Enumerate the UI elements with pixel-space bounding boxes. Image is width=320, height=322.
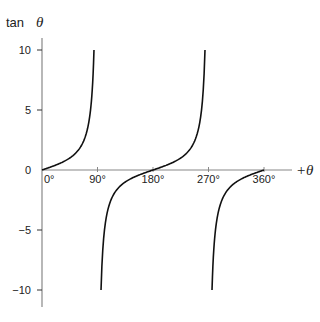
- y-axis-title-symbol: θ: [36, 14, 44, 30]
- y-tick-label: −5: [18, 224, 31, 236]
- x-axis-title: +θ: [296, 162, 314, 178]
- y-tick-label: 10: [19, 44, 31, 56]
- tan-chart: 1050−5−100°90°180°270°360°tanθ+θ: [0, 0, 320, 322]
- x-tick-label: 90°: [89, 173, 106, 185]
- x-tick-label: 270°: [197, 173, 220, 185]
- tan-curve-branch-3: [212, 170, 264, 290]
- tan-curve-branch-1: [42, 50, 94, 170]
- y-tick-label: −10: [12, 284, 31, 296]
- y-axis-title: tan: [6, 15, 24, 30]
- y-tick-label: 5: [25, 104, 31, 116]
- y-tick-label: 0: [25, 164, 31, 176]
- x-tick-label: 180°: [142, 173, 165, 185]
- x-tick-label: 360°: [253, 173, 276, 185]
- x-tick-label: 0°: [44, 173, 55, 185]
